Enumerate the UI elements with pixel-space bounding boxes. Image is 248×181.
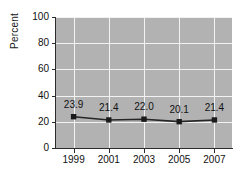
data-point-marker — [141, 116, 146, 121]
data-value-label: 20.1 — [169, 105, 188, 115]
x-axis-tick-label: 1999 — [62, 155, 84, 165]
plot-area — [56, 17, 232, 148]
y-axis-tick-mark — [52, 148, 56, 149]
data-point-marker — [71, 114, 76, 119]
y-axis-tick-label: 60 — [20, 64, 49, 74]
x-axis-tick-labels: 19992001200320052007 — [0, 155, 248, 169]
y-axis-tick-mark — [52, 17, 56, 18]
x-axis-tick-label: 2005 — [168, 155, 190, 165]
x-axis-tick-mark — [179, 149, 180, 153]
data-value-label: 21.4 — [99, 103, 118, 113]
data-point-marker — [177, 119, 182, 124]
x-axis-tick-label: 2007 — [203, 155, 225, 165]
y-axis-tick-labels: 020406080100 — [20, 0, 49, 181]
y-axis-tick-label: 40 — [20, 91, 49, 101]
data-point-marker — [212, 117, 217, 122]
x-axis-tick-mark — [109, 149, 110, 153]
data-series-line — [56, 17, 232, 148]
x-axis-tick-label: 2003 — [133, 155, 155, 165]
y-axis-tick-mark — [52, 122, 56, 123]
y-axis-tick-label: 20 — [20, 117, 49, 127]
y-axis-tick-label: 100 — [20, 12, 49, 22]
data-point-marker — [106, 117, 111, 122]
data-value-label: 21.4 — [205, 103, 224, 113]
x-axis-tick-mark — [214, 149, 215, 153]
y-axis-tick-mark — [52, 69, 56, 70]
data-value-label: 23.9 — [64, 100, 83, 110]
data-value-label: 22.0 — [134, 102, 153, 112]
line-chart: Percent 020406080100 23.921.422.020.121.… — [0, 0, 248, 181]
x-axis-tick-label: 2001 — [98, 155, 120, 165]
y-axis-tick-label: 80 — [20, 38, 49, 48]
y-axis-tick-mark — [52, 96, 56, 97]
y-axis-tick-mark — [52, 43, 56, 44]
x-axis-tick-mark — [144, 149, 145, 153]
y-axis-tick-label: 0 — [20, 143, 49, 153]
x-axis-tick-mark — [74, 149, 75, 153]
